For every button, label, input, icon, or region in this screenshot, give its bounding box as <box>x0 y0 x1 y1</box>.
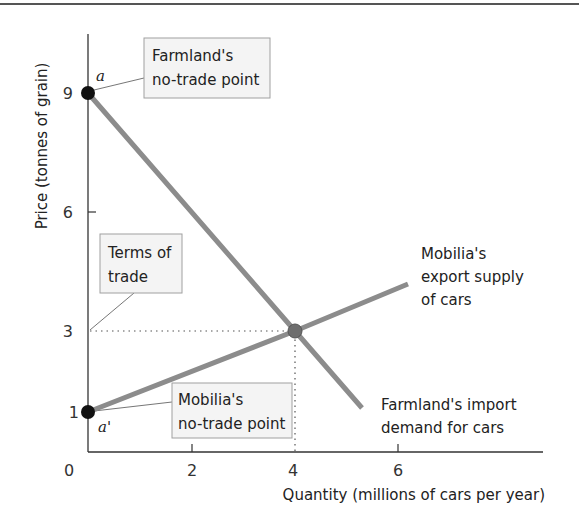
x-tick-label-0: 0 <box>64 461 74 480</box>
x-tick-label-2: 2 <box>187 461 197 480</box>
x-tick-label-6: 6 <box>393 461 403 480</box>
terms-callout-line1: Terms of <box>107 244 172 262</box>
farmland-callout-line1: Farmland's <box>152 47 233 65</box>
point-a <box>81 86 95 100</box>
mobilia-no-trade-callout: Mobilia's no-trade point <box>172 383 292 438</box>
mobilia-callout-line2: no-trade point <box>178 415 286 433</box>
terms-of-trade-callout: Terms of trade <box>100 234 182 293</box>
x-axis-title: Quantity (millions of cars per year) <box>283 486 545 504</box>
supply-label-line1: Mobilia's <box>421 245 486 263</box>
equilibrium-point <box>288 324 302 338</box>
point-a-label: a <box>96 67 105 85</box>
y-tick-label-9: 9 <box>63 84 73 103</box>
terms-callout-line2: trade <box>108 268 148 286</box>
y-tick-label-3: 3 <box>63 322 73 341</box>
trade-equilibrium-chart: a a' Farmland's no-trade point Terms of … <box>0 0 579 524</box>
farmland-no-trade-callout: Farmland's no-trade point <box>144 38 270 98</box>
y-tick-label-1: 1 <box>69 403 79 422</box>
point-a-prime-label: a' <box>98 418 111 436</box>
supply-label-line3: of cars <box>421 291 472 309</box>
mobilia-callout-line1: Mobilia's <box>178 391 243 409</box>
terms-callout-connector <box>90 293 134 330</box>
demand-label-line1: Farmland's import <box>381 396 517 414</box>
x-tick-label-4: 4 <box>288 461 298 480</box>
demand-label-line2: demand for cars <box>381 419 504 437</box>
y-tick-label-6: 6 <box>63 203 73 222</box>
supply-label-line2: export supply <box>421 268 524 286</box>
point-a-prime <box>81 405 95 419</box>
farmland-callout-line2: no-trade point <box>152 71 260 89</box>
y-axis-title: Price (tonnes of grain) <box>33 63 51 230</box>
